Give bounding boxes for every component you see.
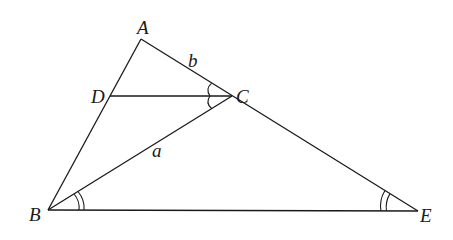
segment-label-b: b	[188, 50, 198, 71]
angle-mark-ACD	[208, 83, 212, 96]
point-label-E: E	[419, 205, 432, 226]
point-label-B: B	[29, 204, 41, 225]
segment-AE	[141, 39, 418, 211]
segment-BC	[48, 96, 232, 210]
point-label-D: D	[90, 86, 105, 107]
segment-label-a: a	[152, 140, 162, 161]
geometry-diagram: A D C B E b a	[0, 0, 453, 240]
point-label-A: A	[135, 17, 149, 38]
point-label-C: C	[236, 86, 249, 107]
segment-AB	[48, 39, 141, 210]
angle-mark-DCB	[208, 96, 212, 109]
segment-BE	[48, 210, 418, 211]
angle-mark-BEA-outer	[381, 191, 386, 212]
angle-mark-CBE-inner	[74, 194, 79, 210]
angle-mark-BEA-inner	[386, 194, 390, 211]
